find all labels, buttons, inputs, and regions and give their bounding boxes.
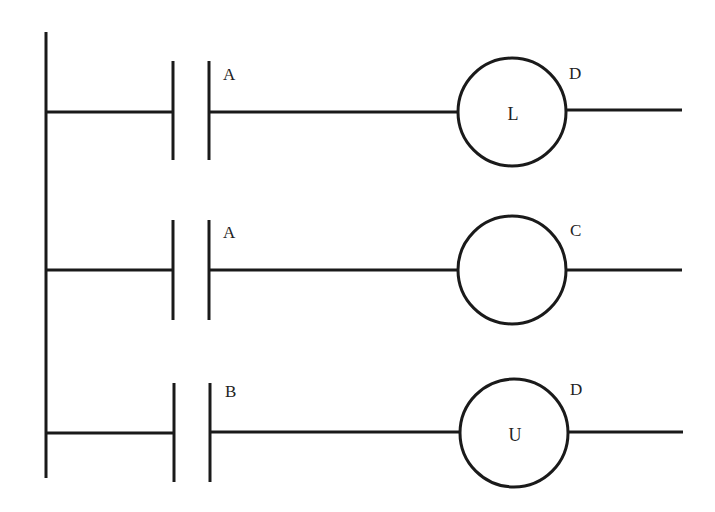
contact-label: A — [223, 223, 236, 242]
coil-inner-label: U — [509, 425, 522, 445]
rung-3: B U D — [46, 379, 683, 487]
coil-circle — [458, 216, 566, 324]
coil-unlatch-d: U D — [460, 379, 582, 487]
contact-label: B — [225, 382, 236, 401]
coil-tag: C — [570, 221, 581, 240]
coil-tag: D — [569, 64, 581, 83]
coil-output-c: C — [458, 216, 581, 324]
rung-1: A L D — [46, 58, 682, 166]
ladder-diagram: A L D A C B — [0, 0, 715, 512]
contact-label: A — [223, 65, 236, 84]
rung-2: A C — [46, 216, 682, 324]
coil-latch-d: L D — [458, 58, 581, 166]
coil-tag: D — [570, 380, 582, 399]
coil-inner-label: L — [508, 104, 519, 124]
